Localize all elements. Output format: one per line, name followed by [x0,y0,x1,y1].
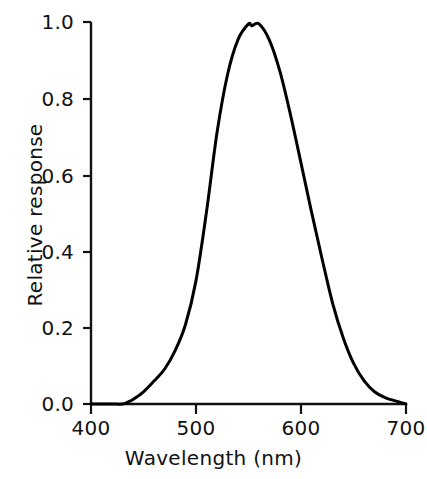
y-tick-label-1-0: 1.0 [14,12,74,32]
x-tick-label-600: 600 [261,418,341,438]
y-axis-label: Relative response [24,95,46,335]
x-tick-label-400: 400 [51,418,131,438]
figure-canvas: 1.0 0.8 0.6 0.4 0.2 0.0 400 500 600 700 … [0,0,427,479]
x-tick-label-700: 700 [366,418,427,438]
y-tick-label-0-0: 0.0 [14,394,74,414]
response-curve [91,23,406,404]
x-axis-label: Wavelength (nm) [0,447,427,469]
x-tick-label-500: 500 [156,418,236,438]
x-axis-ticks [91,404,406,414]
